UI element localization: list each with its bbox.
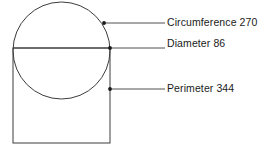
leader-dot-circumference xyxy=(102,21,106,25)
leader-dot-perimeter xyxy=(108,87,112,91)
label-diameter: Diameter 86 xyxy=(167,38,225,49)
label-perimeter: Perimeter 344 xyxy=(167,83,234,94)
leader-dot-diameter xyxy=(108,46,112,50)
circle-shape xyxy=(13,2,110,99)
label-circumference: Circumference 270 xyxy=(167,17,257,28)
rectangle-shape xyxy=(13,48,110,143)
diagram-canvas: Circumference 270 Diameter 86 Perimeter … xyxy=(0,0,279,152)
